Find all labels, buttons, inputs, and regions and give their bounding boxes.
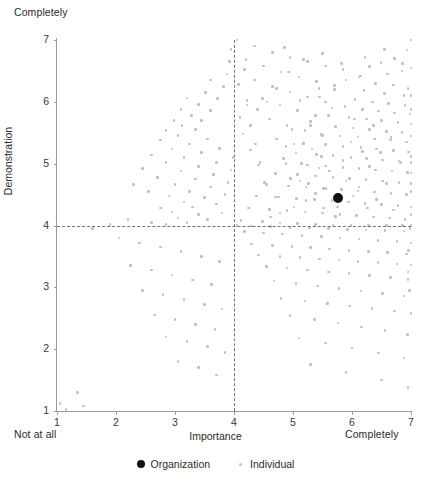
data-point-individual	[281, 233, 284, 236]
data-point-individual	[374, 82, 377, 85]
x-tick-mark	[116, 412, 117, 415]
data-point-individual	[218, 147, 221, 150]
x-tick-mark	[57, 412, 58, 415]
data-point-individual	[409, 227, 412, 230]
data-point-individual	[190, 114, 193, 117]
data-point-individual	[249, 149, 252, 152]
data-point-individual	[174, 318, 177, 321]
data-point-individual	[206, 138, 209, 141]
data-point-individual	[403, 357, 406, 360]
scatter-plot-figure: Completely Demonstration Importance Not …	[0, 0, 431, 488]
x-tick-mark	[411, 412, 412, 415]
data-point-individual	[337, 322, 340, 325]
data-point-individual	[348, 116, 351, 119]
data-point-individual	[171, 148, 174, 151]
data-point-individual	[246, 99, 249, 102]
data-point-individual	[383, 48, 386, 51]
data-point-individual	[365, 178, 368, 181]
data-point-individual	[371, 101, 374, 104]
data-point-individual	[372, 216, 375, 219]
legend-marker-individual-icon	[239, 463, 242, 466]
data-point-individual	[357, 260, 360, 263]
data-point-individual	[366, 207, 369, 210]
data-point-individual	[346, 228, 349, 231]
data-point-individual	[287, 71, 290, 74]
data-point-individual	[397, 204, 400, 207]
data-point-individual	[334, 125, 337, 128]
data-point-individual	[392, 84, 395, 87]
data-point-individual	[186, 340, 189, 343]
data-point-organization[interactable]	[333, 193, 343, 203]
data-point-individual	[403, 295, 406, 298]
y-tick-mark	[54, 40, 57, 41]
data-point-individual	[293, 143, 296, 146]
data-point-individual	[304, 129, 307, 132]
data-point-individual	[274, 196, 277, 199]
x-tick-label: 7	[401, 416, 421, 428]
x-tick-label: 1	[47, 416, 67, 428]
data-point-individual	[165, 129, 168, 132]
data-point-individual	[338, 259, 341, 262]
data-point-individual	[393, 112, 396, 115]
data-point-individual	[355, 214, 358, 217]
data-point-individual	[358, 167, 361, 170]
data-point-individual	[342, 145, 345, 148]
data-point-individual	[309, 120, 312, 123]
data-point-individual	[289, 91, 292, 94]
data-point-individual	[159, 139, 162, 142]
data-point-individual	[76, 391, 79, 394]
data-point-individual	[404, 218, 407, 221]
data-point-individual	[315, 153, 318, 156]
data-point-individual	[339, 237, 342, 240]
data-point-individual	[324, 342, 327, 345]
data-point-individual	[253, 45, 256, 48]
data-point-individual	[345, 79, 348, 82]
data-point-individual	[380, 203, 383, 206]
data-point-individual	[318, 258, 321, 261]
data-point-individual	[410, 108, 413, 111]
x-axis-left-anchor-label: Not at all	[14, 428, 56, 440]
data-point-individual	[306, 164, 309, 167]
data-point-individual	[386, 251, 389, 254]
x-tick-mark	[234, 412, 235, 415]
data-point-individual	[302, 58, 305, 61]
data-point-individual	[318, 96, 321, 99]
data-point-individual	[399, 161, 402, 164]
data-point-individual	[91, 227, 94, 230]
data-point-individual	[266, 101, 269, 104]
data-point-individual	[368, 165, 371, 168]
data-point-individual	[363, 89, 366, 92]
data-point-individual	[171, 274, 174, 277]
legend-item-organization[interactable]: Organization	[137, 458, 211, 470]
data-point-individual	[165, 161, 168, 164]
data-point-individual	[65, 408, 68, 411]
data-point-individual	[299, 180, 302, 183]
data-point-individual	[250, 243, 253, 246]
data-point-individual	[410, 94, 413, 97]
data-point-individual	[262, 232, 265, 235]
data-point-individual	[320, 155, 323, 158]
data-point-individual	[348, 305, 351, 308]
data-point-individual	[138, 242, 141, 245]
data-point-individual	[256, 108, 259, 111]
data-point-individual	[345, 371, 348, 374]
data-point-individual	[293, 206, 296, 209]
data-point-individual	[342, 166, 345, 169]
data-point-individual	[313, 198, 316, 201]
x-tick-label: 5	[283, 416, 303, 428]
data-point-individual	[221, 212, 224, 215]
data-point-individual	[150, 221, 153, 224]
data-point-individual	[295, 197, 298, 200]
data-point-individual	[318, 167, 321, 170]
data-point-individual	[203, 303, 206, 306]
legend-item-individual[interactable]: Individual	[236, 458, 294, 470]
data-point-individual	[162, 293, 165, 296]
data-point-individual	[377, 239, 380, 242]
data-point-individual	[327, 271, 330, 274]
data-point-individual	[327, 227, 330, 230]
data-point-individual	[320, 235, 323, 238]
data-point-individual	[308, 227, 311, 230]
data-point-individual	[316, 285, 319, 288]
x-tick-label: 4	[224, 416, 244, 428]
data-point-individual	[286, 267, 289, 270]
